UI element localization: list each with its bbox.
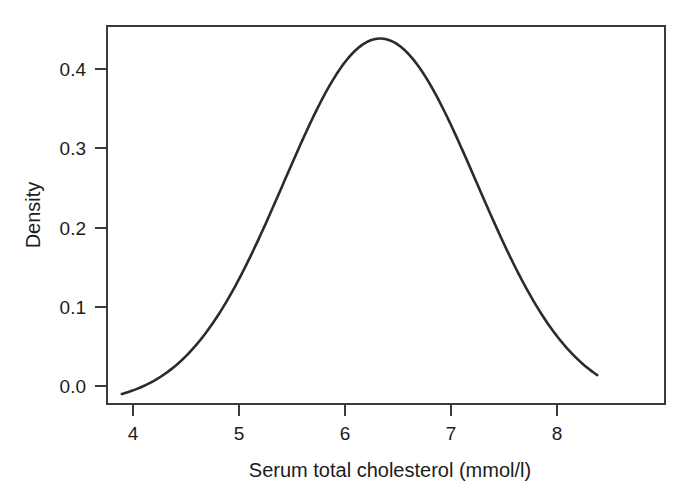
y-axis-ticks [95, 69, 107, 386]
y-tick-label: 0.4 [60, 59, 87, 80]
x-axis-ticks [133, 404, 557, 416]
y-tick-label: 0.0 [60, 376, 86, 397]
density-curve [122, 39, 597, 394]
x-tick-label: 7 [446, 423, 457, 444]
x-axis-title: Serum total cholesterol (mmol/l) [249, 459, 531, 481]
chart-canvas: 4 5 6 7 8 0.0 0.1 0.2 0.3 0.4 Serum tota… [0, 0, 698, 498]
y-tick-label: 0.1 [60, 297, 86, 318]
x-tick-labels: 4 5 6 7 8 [128, 423, 563, 444]
y-axis-title: Density [22, 182, 44, 249]
x-tick-label: 8 [552, 423, 563, 444]
y-tick-label: 0.3 [60, 138, 86, 159]
plot-frame [107, 26, 665, 404]
x-tick-label: 6 [340, 423, 351, 444]
x-tick-label: 5 [234, 423, 245, 444]
y-tick-label: 0.2 [60, 218, 86, 239]
density-plot-figure: 4 5 6 7 8 0.0 0.1 0.2 0.3 0.4 Serum tota… [0, 0, 698, 498]
y-tick-labels: 0.0 0.1 0.2 0.3 0.4 [60, 59, 87, 397]
x-tick-label: 4 [128, 423, 139, 444]
